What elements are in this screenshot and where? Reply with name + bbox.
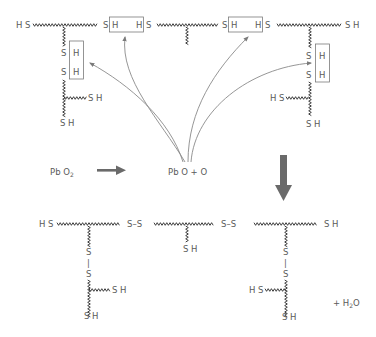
box2-left-h: H	[231, 20, 237, 30]
bottom-right-side-branch	[265, 289, 286, 292]
box1-right-s: S	[146, 20, 151, 30]
curve-arrow-to-box-1	[125, 37, 185, 162]
right-box-h1: H	[319, 51, 325, 61]
top-right-side-branch	[286, 97, 308, 100]
left-box-h2: H	[73, 67, 79, 77]
bottom-left-s-top: S	[86, 247, 91, 257]
curve-arrow-to-right-box	[191, 63, 311, 162]
bottom-chain-left-end: H S	[39, 219, 54, 229]
top-chain-segment-3	[277, 24, 341, 27]
top-left-vertical-upper	[63, 27, 66, 46]
left-box-s2: S	[61, 67, 66, 77]
top-right-vertical-lower	[309, 82, 312, 116]
bottom-right-vertical-upper	[285, 226, 288, 247]
top-chain-segment-2	[157, 24, 218, 27]
bottom-left-bottom-end: S H	[84, 311, 99, 321]
bottom-chain-segment-1	[57, 223, 119, 226]
bottom-left-vertical-upper	[88, 226, 91, 247]
right-bottom-end: S H	[306, 119, 321, 129]
bottom-right-s-top: S	[283, 247, 288, 257]
right-side-end: H S	[270, 93, 285, 103]
bottom-left-side-branch	[89, 289, 110, 292]
box2-right-s: S	[265, 20, 270, 30]
bottom-right-side-end: H S	[249, 285, 264, 295]
right-box-h2: H	[319, 70, 325, 80]
disulfide-bridge-1: S–S	[127, 219, 142, 229]
left-side-end: S H	[88, 93, 103, 103]
bottom-left-side-end: S H	[112, 285, 127, 295]
curve-arrow-to-box-2	[188, 37, 248, 162]
disulfide-bridge-2: S–S	[221, 219, 236, 229]
bottom-structure: H S S–S S–S S H S H S | S S H S H S | S …	[39, 219, 360, 322]
box2-right-h: H	[255, 20, 261, 30]
box1-right-h: H	[136, 20, 142, 30]
products-pbo-o: Pb O + O	[168, 167, 207, 177]
reaction-equation: Pb O2 Pb O + O	[50, 166, 207, 179]
top-structure: H S S H H S S H H S S H S H S H S H S H …	[16, 17, 360, 129]
top-chain-segment-1	[33, 24, 97, 27]
right-box-s1: S	[306, 51, 311, 61]
lead-oxide-vulcanization-diagram: H S S H H S S H H S S H S H S H S H S H …	[0, 0, 376, 337]
bottom-left-bond: |	[87, 258, 90, 268]
process-arrow-down	[275, 155, 292, 201]
bottom-chain-segment-3	[254, 223, 316, 226]
byproduct-water: + H2O	[333, 298, 360, 309]
reactant-pbo2: Pb O2	[50, 167, 74, 178]
reaction-arrow-right	[97, 166, 126, 176]
top-mid-vertical	[186, 27, 189, 45]
bottom-right-bond: |	[284, 258, 287, 268]
box1-left-s: S	[103, 20, 108, 30]
bottom-chain-segment-2	[154, 223, 213, 226]
top-chain-right-end: S H	[345, 20, 360, 30]
curve-arrow-to-left-box	[90, 63, 183, 162]
bottom-mid-end: S H	[183, 244, 198, 254]
top-right-vertical-upper	[309, 27, 312, 48]
left-box-h1: H	[73, 48, 79, 58]
bottom-right-s-bottom: S	[283, 269, 288, 279]
box2-left-s: S	[222, 20, 227, 30]
bottom-left-s-bottom: S	[86, 269, 91, 279]
bottom-chain-right-end: S H	[324, 219, 339, 229]
bottom-right-bottom-end: S H	[282, 312, 297, 322]
left-bottom-end: S H	[60, 118, 75, 128]
bottom-mid-vertical	[186, 226, 189, 242]
right-box-s2: S	[306, 70, 311, 80]
top-left-side-branch	[64, 97, 86, 100]
top-chain-left-end: H S	[16, 20, 31, 30]
left-box-s1: S	[61, 48, 66, 58]
box1-left-h: H	[112, 20, 118, 30]
